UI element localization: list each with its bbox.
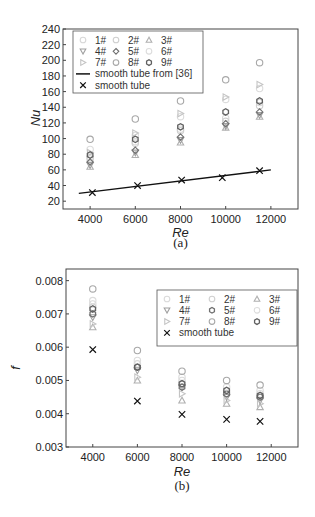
data-point bbox=[87, 136, 93, 142]
x-axis-label: Re bbox=[174, 464, 191, 479]
data-point bbox=[90, 346, 96, 352]
y-tick-label: 120 bbox=[42, 117, 60, 129]
y-axis-label: f bbox=[8, 365, 23, 370]
legend-label: 4# bbox=[179, 305, 191, 316]
data-point bbox=[223, 416, 229, 422]
y-tick-label: 160 bbox=[42, 86, 60, 98]
data-point bbox=[223, 377, 229, 383]
y-axis-label: Nu bbox=[28, 110, 43, 127]
y-tick-label: 200 bbox=[42, 54, 60, 66]
y-tick-label: 80 bbox=[48, 148, 60, 160]
legend-label: 2# bbox=[224, 294, 236, 305]
chart-b: 40006000800010000120000.0030.0040.0050.0… bbox=[8, 269, 298, 493]
legend-label: 8# bbox=[224, 316, 236, 327]
x-tick-label: 12000 bbox=[256, 451, 287, 463]
legend-label: smooth tube from [36] bbox=[95, 68, 192, 79]
legend-label: 5# bbox=[224, 305, 236, 316]
y-tick-label: 0.003 bbox=[35, 441, 63, 453]
figure: 4000600080001000012000204060801001201401… bbox=[0, 0, 315, 517]
series-4- bbox=[87, 113, 263, 169]
data-point bbox=[179, 391, 185, 397]
series-3- bbox=[87, 113, 263, 169]
y-tick-label: 240 bbox=[42, 23, 60, 35]
x-tick-label: 12000 bbox=[256, 213, 287, 225]
y-tick-label: 60 bbox=[48, 164, 60, 176]
series-9- bbox=[87, 98, 262, 158]
data-point bbox=[257, 98, 263, 104]
y-tick-label: 0.004 bbox=[35, 408, 63, 420]
x-tick-label: 4000 bbox=[81, 451, 105, 463]
legend-label: 3# bbox=[161, 35, 173, 46]
y-tick-label: 0.005 bbox=[35, 374, 63, 386]
legend: 1#2#3#4#5#6#7#8#9#smooth tube from [36]s… bbox=[73, 31, 203, 93]
y-tick-label: 140 bbox=[42, 101, 60, 113]
legend-label: 6# bbox=[161, 46, 173, 57]
y-tick-label: 20 bbox=[48, 195, 60, 207]
legend-label: 9# bbox=[161, 57, 173, 68]
legend-label: smooth tube bbox=[179, 327, 234, 338]
data-point bbox=[223, 109, 229, 115]
legend: 1#2#3#4#5#6#7#8#9#smooth tube bbox=[157, 290, 297, 346]
series-smooth-tube bbox=[90, 346, 264, 424]
legend-label: 8# bbox=[128, 57, 140, 68]
data-point bbox=[222, 77, 228, 83]
y-tick-label: 180 bbox=[42, 70, 60, 82]
data-point bbox=[134, 398, 140, 404]
y-tick-label: 0.008 bbox=[35, 275, 63, 287]
y-tick-label: 0.007 bbox=[35, 308, 63, 320]
data-point bbox=[177, 98, 183, 104]
series-6- bbox=[87, 85, 263, 152]
x-tick-label: 6000 bbox=[125, 451, 149, 463]
data-point bbox=[179, 411, 185, 417]
legend-label: 1# bbox=[95, 35, 107, 46]
x-tick-label: 10000 bbox=[211, 451, 242, 463]
legend-label: 1# bbox=[179, 294, 191, 305]
data-point bbox=[256, 59, 262, 65]
x-tick-label: 4000 bbox=[78, 213, 102, 225]
legend-label: 2# bbox=[128, 35, 140, 46]
x-tick-label: 8000 bbox=[170, 451, 194, 463]
chart-a: 4000600080001000012000204060801001201401… bbox=[28, 23, 298, 250]
legend-label: 4# bbox=[95, 46, 107, 57]
legend-label: 9# bbox=[269, 316, 281, 327]
y-tick-label: 100 bbox=[42, 133, 60, 145]
x-tick-label: 10000 bbox=[210, 213, 241, 225]
data-point bbox=[90, 286, 96, 292]
data-point bbox=[134, 347, 140, 353]
x-tick-label: 6000 bbox=[123, 213, 147, 225]
figure-caption: (b) bbox=[174, 478, 189, 493]
legend-label: 7# bbox=[95, 57, 107, 68]
y-tick-label: 40 bbox=[48, 180, 60, 192]
series-2- bbox=[87, 102, 263, 162]
series-1- bbox=[87, 99, 263, 160]
smooth-tube-reference-line bbox=[79, 170, 271, 193]
y-tick-label: 0.006 bbox=[35, 341, 63, 353]
legend-label: 5# bbox=[128, 46, 140, 57]
figure-caption: (a) bbox=[173, 235, 187, 250]
legend-label: 6# bbox=[269, 305, 281, 316]
legend-label: 3# bbox=[269, 294, 281, 305]
x-tick-label: 8000 bbox=[168, 213, 192, 225]
series-smooth-tube-from-36- bbox=[79, 170, 271, 193]
data-point bbox=[132, 116, 138, 122]
legend-label: smooth tube bbox=[95, 80, 150, 91]
series-5- bbox=[87, 109, 263, 165]
data-point bbox=[179, 397, 185, 403]
data-point bbox=[257, 418, 263, 424]
legend-label: 7# bbox=[179, 316, 191, 327]
y-tick-label: 220 bbox=[42, 39, 60, 51]
